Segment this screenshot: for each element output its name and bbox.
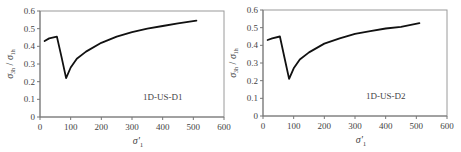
chart-panel-1d-us-d1: 00.10.20.30.40.50.60100200300400500600σ'… (4, 6, 231, 149)
y-tick-label: 0 (31, 112, 36, 122)
x-tick-label: 600 (217, 122, 231, 132)
x-tick-label: 100 (287, 121, 301, 131)
x-tick-label: 600 (440, 121, 454, 131)
y-tick-label: 0.4 (247, 40, 259, 50)
y-tick-label: 0.3 (24, 59, 36, 69)
chart-panel-1d-us-d2: 00.10.20.30.40.50.60100200300400500600σ'… (227, 5, 454, 148)
x-tick-label: 500 (410, 121, 424, 131)
x-tick-label: 300 (348, 121, 362, 131)
x-tick-label: 0 (261, 121, 266, 131)
x-tick-label: 0 (38, 122, 43, 132)
x-tick-label: 200 (95, 122, 109, 132)
y-tick-label: 0.4 (24, 41, 36, 51)
data-line (45, 21, 197, 78)
y-tick-label: 0.6 (247, 5, 259, 15)
plot-area-frame (40, 11, 224, 117)
x-tick-label: 400 (379, 121, 393, 131)
y-tick-label: 0.2 (24, 77, 35, 87)
panel-label: 1D-US-D2 (366, 91, 406, 101)
x-axis-title: σ'1 (356, 134, 367, 148)
y-tick-label: 0.5 (247, 23, 259, 33)
y-tick-label: 0.3 (247, 58, 259, 68)
plot-area-frame (263, 10, 447, 116)
x-axis-title: σ'1 (133, 135, 144, 149)
x-tick-label: 400 (156, 122, 170, 132)
data-line (268, 23, 420, 79)
y-tick-label: 0.2 (247, 76, 258, 86)
x-tick-label: 100 (64, 122, 78, 132)
figure: 00.10.20.30.40.50.60100200300400500600σ'… (0, 0, 461, 152)
y-tick-label: 0.1 (24, 94, 35, 104)
x-tick-label: 300 (125, 122, 139, 132)
panel-label: 1D-US-D1 (143, 92, 183, 102)
y-axis-title: σ3h / σ1h (227, 48, 239, 78)
y-tick-label: 0 (254, 111, 259, 121)
y-tick-label: 0.1 (247, 93, 258, 103)
y-axis-title: σ3h / σ1h (4, 49, 16, 79)
x-tick-label: 500 (187, 122, 201, 132)
y-tick-label: 0.6 (24, 6, 36, 16)
x-tick-label: 200 (318, 121, 332, 131)
y-tick-label: 0.5 (24, 24, 36, 34)
